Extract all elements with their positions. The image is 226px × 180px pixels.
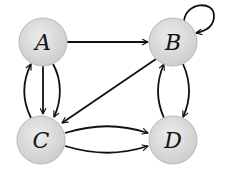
node-d: D xyxy=(149,116,197,164)
graph-diagram: A B C D xyxy=(0,0,226,180)
node-a: A xyxy=(19,18,67,66)
node-b-label: B xyxy=(164,30,181,55)
edge-d-to-b-curved xyxy=(158,64,164,118)
edge-a-to-c-curved xyxy=(53,64,60,117)
node-a-label: A xyxy=(33,30,51,55)
edge-b-to-c xyxy=(62,59,156,123)
node-b: B xyxy=(149,18,197,66)
graph-canvas: A B C D xyxy=(0,0,226,180)
edge-c-to-d-lower xyxy=(65,146,148,153)
edge-b-to-d-curved xyxy=(183,64,189,117)
node-c-label: C xyxy=(33,128,50,153)
edge-c-to-a-curved xyxy=(24,64,31,118)
edge-c-to-d-upper xyxy=(65,126,148,133)
node-c: C xyxy=(17,116,65,164)
node-d-label: D xyxy=(163,128,182,153)
